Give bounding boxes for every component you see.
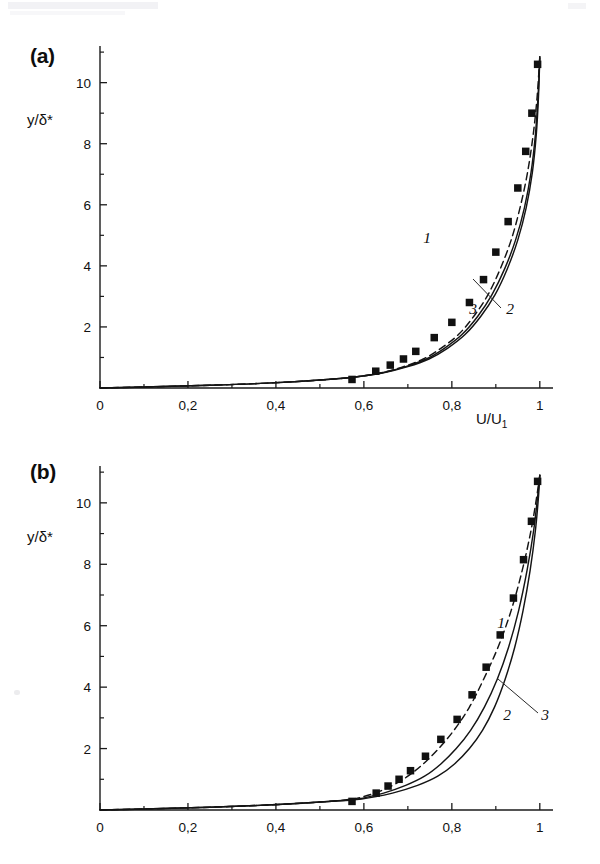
- x-tick-label: 0,4: [267, 398, 286, 413]
- data-marker: [528, 518, 536, 526]
- y-tick-label: 2: [83, 320, 91, 335]
- x-tick-label: 0,2: [179, 398, 198, 413]
- data-marker: [437, 736, 445, 744]
- panel-b: (b) y/δ* Θ 24681000,20,40,60,81123: [0, 432, 600, 862]
- curve-1: [100, 475, 540, 810]
- y-tick-label: 2: [83, 742, 91, 757]
- x-tick-label: 0,8: [442, 398, 461, 413]
- y-tick-label: 6: [83, 619, 91, 634]
- panel-a: (a) y/δ* U/U1 24681000,20,40,60,81123: [0, 18, 600, 433]
- data-marker: [372, 367, 380, 375]
- data-marker: [407, 767, 415, 775]
- data-marker: [522, 148, 530, 156]
- scan-artifact-corner: [568, 3, 586, 9]
- data-marker: [468, 691, 476, 699]
- x-tick-label: 0,4: [267, 820, 286, 835]
- x-tick-label: 0,6: [354, 398, 373, 413]
- data-marker: [384, 782, 392, 790]
- curve-2: [100, 475, 540, 810]
- data-marker: [482, 663, 490, 671]
- y-tick-label: 8: [83, 137, 91, 152]
- x-tick-label: 0,6: [354, 820, 373, 835]
- curve-label-2: 2: [506, 300, 514, 317]
- data-marker: [448, 319, 456, 327]
- data-marker: [400, 355, 408, 363]
- data-marker: [504, 218, 512, 226]
- data-marker: [514, 184, 522, 192]
- x-tick-label: 0: [96, 398, 104, 413]
- y-tick-label: 8: [83, 557, 91, 572]
- curve-label-1: 1: [497, 614, 505, 631]
- x-tick-label: 0,8: [442, 820, 461, 835]
- data-marker: [395, 776, 403, 784]
- data-marker: [348, 376, 356, 384]
- curve-2: [100, 57, 540, 388]
- data-marker: [492, 248, 500, 256]
- curve-label-2: 2: [503, 706, 511, 723]
- data-marker: [348, 798, 356, 806]
- scan-artifact-header-secondary: [10, 11, 125, 15]
- curve-1: [100, 57, 540, 388]
- curve-label-3: 3: [540, 706, 549, 723]
- data-marker: [387, 361, 395, 369]
- data-marker: [372, 789, 380, 797]
- data-marker: [412, 348, 420, 356]
- x-tick-label: 0,2: [179, 820, 198, 835]
- data-marker: [510, 594, 518, 602]
- data-marker: [431, 334, 439, 342]
- x-tick-label: 1: [536, 820, 544, 835]
- y-tick-label: 6: [83, 198, 91, 213]
- data-marker: [534, 478, 542, 486]
- x-tick-label: 1: [536, 398, 544, 413]
- data-marker: [480, 276, 488, 284]
- panel-b-plot: 24681000,20,40,60,81123: [0, 432, 600, 862]
- data-marker: [520, 556, 528, 564]
- x-tick-label: 0: [96, 820, 104, 835]
- y-tick-label: 10: [76, 496, 91, 511]
- data-marker: [534, 61, 542, 69]
- curve-label-3: 3: [468, 300, 477, 317]
- curve-3: [100, 57, 540, 388]
- figure-page: (a) y/δ* U/U1 24681000,20,40,60,81123 (b…: [0, 0, 600, 864]
- panel-a-plot: 24681000,20,40,60,81123: [0, 18, 600, 433]
- scan-artifact-header: [8, 2, 158, 9]
- y-tick-label: 10: [76, 76, 91, 91]
- curve-label-1: 1: [423, 229, 431, 246]
- data-marker: [453, 716, 461, 724]
- y-tick-label: 4: [83, 680, 91, 695]
- data-marker: [496, 631, 504, 639]
- curve-3: [100, 475, 540, 810]
- data-marker: [422, 753, 430, 761]
- y-tick-label: 4: [83, 259, 91, 274]
- data-marker: [528, 109, 536, 117]
